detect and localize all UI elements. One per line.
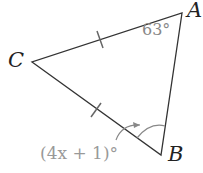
angle-a-label: 63° <box>142 20 170 39</box>
angle-arc-b <box>137 125 165 138</box>
triangle-diagram: A C B 63° (4x + 1)° <box>0 0 203 173</box>
angle-b-label: (4x + 1)° <box>40 143 118 163</box>
vertex-label-b: B <box>168 142 183 166</box>
vertex-label-a: A <box>187 0 202 22</box>
vertex-label-c: C <box>8 48 24 72</box>
arrow-head-icon <box>133 122 140 128</box>
